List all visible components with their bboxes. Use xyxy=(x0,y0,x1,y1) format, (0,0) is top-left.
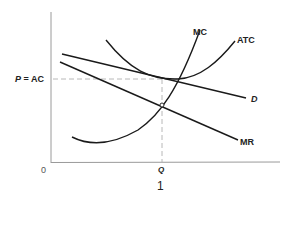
marginal-cost-curve xyxy=(72,30,200,143)
demand-label: D xyxy=(251,95,258,104)
x-axis xyxy=(51,162,280,163)
average-total-cost-curve xyxy=(106,40,235,79)
mr-label: MR xyxy=(240,138,254,147)
quantity-label: Q xyxy=(158,166,164,174)
mc-label: MC xyxy=(193,28,207,37)
origin-label: 0 xyxy=(41,166,46,175)
equals-ac-text: = AC xyxy=(21,74,44,84)
atc-label: ATC xyxy=(237,36,255,45)
price-equals-ac-label: P = AC xyxy=(15,75,44,84)
mr-mc-intersection-point xyxy=(160,103,164,107)
figure-number: 1 xyxy=(157,180,164,192)
marginal-revenue-curve xyxy=(60,62,238,140)
